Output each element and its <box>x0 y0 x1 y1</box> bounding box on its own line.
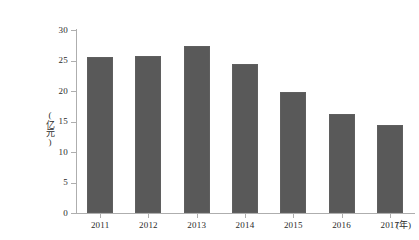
y-axis-tick-label: 5 <box>28 178 68 187</box>
x-axis-tick-label-2012: 2012 <box>126 220 170 230</box>
bar-2017 <box>377 125 403 213</box>
plot-area <box>76 30 414 213</box>
y-axis-unit-label: (亿元) <box>41 110 55 146</box>
x-axis-tick-label-2017: 2017 <box>368 220 412 230</box>
bar-chart-figure: (亿元) 051015202530 (年) 201120122013201420… <box>40 16 419 240</box>
y-axis-tick-label: 30 <box>28 26 68 35</box>
x-axis-tick-mark <box>245 214 246 218</box>
bar-2015 <box>280 92 306 213</box>
x-axis-tick-mark <box>342 214 343 218</box>
x-axis-tick-label-2016: 2016 <box>320 220 364 230</box>
y-axis-tick-label: 0 <box>28 209 68 218</box>
bar-2016 <box>329 114 355 213</box>
y-axis-tick-label: 20 <box>28 87 68 96</box>
x-axis-tick-mark <box>100 214 101 218</box>
bar-2013 <box>184 46 210 213</box>
bar-2014 <box>232 64 258 213</box>
x-axis-tick-mark <box>390 214 391 218</box>
x-axis-tick-mark <box>293 214 294 218</box>
y-axis-tick-label: 25 <box>28 56 68 65</box>
x-axis-tick-label-2014: 2014 <box>223 220 267 230</box>
x-axis-tick-label-2013: 2013 <box>175 220 219 230</box>
y-axis-tick-label: 15 <box>28 117 68 126</box>
y-axis-tick-label: 10 <box>28 148 68 157</box>
x-axis-tick-mark <box>197 214 198 218</box>
bar-2012 <box>135 56 161 213</box>
x-axis-tick-mark <box>148 214 149 218</box>
x-axis-tick-label-2015: 2015 <box>271 220 315 230</box>
bar-2011 <box>87 57 113 213</box>
x-axis-tick-label-2011: 2011 <box>78 220 122 230</box>
